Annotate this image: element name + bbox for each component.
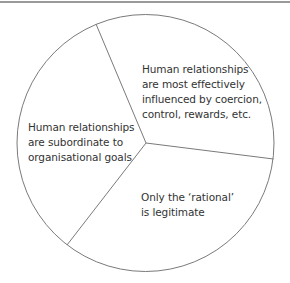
segment-label-bottom-right: Only the ‘rational’ is legitimate (141, 190, 234, 220)
label-line: Only the ‘rational’ (141, 190, 234, 205)
label-line: Human relationships (28, 120, 135, 135)
label-line: organisational goals (28, 150, 135, 165)
label-line: Human relationships (142, 62, 262, 77)
label-line: influenced by coercion, (142, 92, 262, 107)
segment-label-left: Human relationships are subordinate to o… (28, 120, 135, 165)
label-line: are most effectively (142, 77, 262, 92)
segment-label-top-right: Human relationships are most effectively… (142, 62, 262, 122)
label-line: are subordinate to (28, 135, 135, 150)
label-line: control, rewards, etc. (142, 107, 262, 122)
label-line: is legitimate (141, 205, 234, 220)
